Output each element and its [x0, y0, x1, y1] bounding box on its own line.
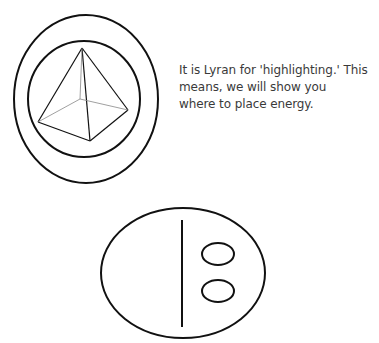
caption-line-1: It is Lyran for 'highlighting.' This — [179, 62, 379, 79]
pyramid-icon — [38, 48, 128, 141]
symbols-figure — [0, 0, 379, 343]
upper-dot — [202, 243, 234, 265]
caption-line-2: means, we will show you — [179, 79, 379, 96]
caption-line-3: where to place energy. — [179, 96, 379, 113]
inner-oval — [28, 41, 140, 157]
pyramid-symbol — [14, 15, 158, 183]
lower-dot — [202, 280, 234, 302]
caption-text: It is Lyran for 'highlighting.' This mea… — [179, 62, 379, 113]
line-dots-symbol — [101, 208, 265, 338]
